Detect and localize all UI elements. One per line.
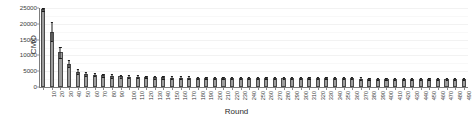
error-bar-cap-bottom — [300, 79, 302, 80]
error-bar-cap-top — [42, 8, 44, 9]
bar-chart: CMO 0500010000150002000025000 1020304050… — [0, 0, 473, 123]
error-bar-cap-top — [342, 77, 344, 78]
error-bar-cap-top — [145, 76, 147, 77]
error-bar-cap-bottom — [394, 80, 396, 81]
x-tick-label: 420 — [407, 91, 413, 100]
error-bar — [60, 47, 61, 58]
x-tick-mark — [43, 88, 44, 90]
x-tick-mark — [103, 88, 104, 90]
x-tick-label: 370 — [364, 91, 370, 100]
error-bar-cap-bottom — [128, 78, 130, 79]
x-tick-mark — [318, 88, 319, 90]
error-bar-cap-bottom — [360, 80, 362, 81]
x-tick-label: 430 — [415, 91, 421, 100]
error-bar-cap-top — [428, 78, 430, 79]
error-bar-cap-bottom — [51, 41, 53, 42]
bar-group — [316, 8, 320, 87]
error-bar-cap-bottom — [265, 79, 267, 80]
y-tick-mark — [37, 71, 39, 72]
error-bar-cap-bottom — [171, 79, 173, 80]
x-tick-mark — [361, 88, 362, 90]
x-tick-label: 70 — [103, 91, 109, 97]
error-bar-cap-bottom — [445, 80, 447, 81]
error-bar-cap-top — [351, 77, 353, 78]
error-bar-cap-bottom — [145, 78, 147, 79]
y-tick-label: 20000 — [20, 21, 37, 27]
x-tick-mark — [206, 88, 207, 90]
bar-group — [247, 8, 251, 87]
x-tick-label: 480 — [458, 91, 464, 100]
bar-group — [393, 8, 397, 87]
x-tick-mark — [86, 88, 87, 90]
error-bar-cap-top — [214, 77, 216, 78]
error-bar-cap-top — [377, 78, 379, 79]
x-tick-mark — [404, 88, 405, 90]
error-bar-cap-bottom — [68, 67, 70, 68]
bar-group — [436, 8, 440, 87]
bar-group — [204, 8, 208, 87]
bar-group — [230, 8, 234, 87]
error-bar-cap-bottom — [85, 76, 87, 77]
x-tick-mark — [172, 88, 173, 90]
error-bar-cap-top — [385, 78, 387, 79]
error-bar-cap-bottom — [205, 79, 207, 80]
bar-group — [333, 8, 337, 87]
bar-group — [50, 8, 54, 87]
x-tick-label: 10 — [52, 91, 58, 97]
error-bar-cap-bottom — [411, 80, 413, 81]
error-bar-cap-top — [231, 77, 233, 78]
error-bar-cap-bottom — [334, 79, 336, 80]
y-tick-mark — [37, 23, 39, 24]
x-tick-label: 300 — [304, 91, 310, 100]
x-tick-label: 460 — [441, 91, 447, 100]
x-tick-mark — [412, 88, 413, 90]
x-tick-mark — [438, 88, 439, 90]
error-bar — [69, 60, 70, 67]
error-bar-cap-top — [197, 77, 199, 78]
x-tick-label: 290 — [295, 91, 301, 100]
x-tick-label: 110 — [140, 91, 146, 100]
error-bar-cap-top — [257, 77, 259, 78]
y-tick-mark — [37, 8, 39, 9]
x-tick-label: 150 — [175, 91, 181, 100]
x-tick-mark — [215, 88, 216, 90]
error-bar-cap-top — [111, 74, 113, 75]
x-tick-label: 230 — [244, 91, 250, 100]
error-bar-cap-top — [445, 78, 447, 79]
error-bar-cap-top — [222, 77, 224, 78]
x-tick-mark — [95, 88, 96, 90]
error-bar-cap-top — [51, 22, 53, 23]
x-tick-label: 360 — [355, 91, 361, 100]
x-tick-mark — [464, 88, 465, 90]
error-bar-cap-bottom — [197, 79, 199, 80]
error-bar-cap-bottom — [463, 80, 465, 81]
bar — [41, 9, 45, 87]
error-bar-cap-top — [437, 78, 439, 79]
error-bar-cap-top — [85, 72, 87, 73]
x-tick-mark — [232, 88, 233, 90]
x-tick-label: 210 — [227, 91, 233, 100]
x-tick-mark — [275, 88, 276, 90]
x-tick-mark — [198, 88, 199, 90]
x-tick-label: 220 — [235, 91, 241, 100]
x-tick-mark — [69, 88, 70, 90]
error-bar-cap-top — [317, 77, 319, 78]
x-tick-label: 50 — [86, 91, 92, 97]
error-bar-cap-bottom — [240, 79, 242, 80]
x-tick-label: 190 — [209, 91, 215, 100]
x-tick-label: 450 — [433, 91, 439, 100]
x-tick-mark — [112, 88, 113, 90]
plot-panel — [39, 8, 468, 87]
x-tick-mark — [258, 88, 259, 90]
bar-group — [187, 8, 191, 87]
error-bar-cap-top — [171, 76, 173, 77]
y-axis-line — [39, 8, 40, 87]
x-tick-mark — [266, 88, 267, 90]
error-bar-cap-top — [403, 78, 405, 79]
x-tick-label: 120 — [149, 91, 155, 100]
y-tick-label: 25000 — [20, 5, 37, 11]
error-bar-cap-top — [360, 77, 362, 78]
error-bar-cap-bottom — [231, 79, 233, 80]
x-tick-mark — [138, 88, 139, 90]
x-tick-mark — [369, 88, 370, 90]
